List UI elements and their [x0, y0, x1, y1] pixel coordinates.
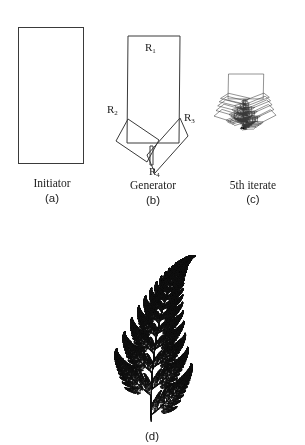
- panel-d-fern-attractor: [0, 0, 305, 445]
- fractal-fern-figure: R1 R2 R3 R4 Initiator (a) Generator (b) …: [0, 0, 305, 445]
- caption-initiator: Initiator: [33, 178, 70, 190]
- region-label-r3: R3: [184, 112, 195, 125]
- region-label-r1: R1: [145, 42, 156, 55]
- sublabel-a: (a): [45, 193, 59, 205]
- sublabel-b: (b): [146, 195, 160, 207]
- sublabel-c: (c): [246, 194, 259, 206]
- caption-generator: Generator: [130, 180, 176, 192]
- region-label-r2: R2: [107, 104, 118, 117]
- caption-fifth-iterate: 5th iterate: [230, 180, 276, 192]
- region-label-r4: R4: [149, 166, 160, 179]
- sublabel-d: (d): [145, 431, 159, 443]
